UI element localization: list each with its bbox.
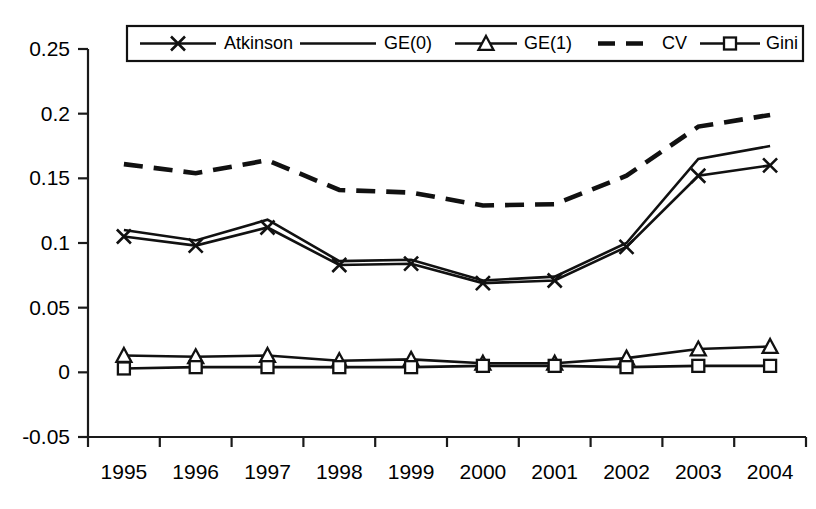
data-point-marker-square xyxy=(724,38,736,50)
series-path xyxy=(124,366,770,369)
x-tick-label: 2004 xyxy=(747,460,794,483)
y-tick-label: 0 xyxy=(58,360,70,383)
series-path xyxy=(124,115,770,206)
series-path xyxy=(124,146,770,281)
y-tick-label: 0.2 xyxy=(41,102,70,125)
x-tick-label: 1996 xyxy=(172,460,219,483)
series-layer xyxy=(116,115,777,374)
legend-label: CV xyxy=(662,33,687,53)
series-path xyxy=(124,346,770,363)
data-point-marker-square xyxy=(477,360,489,372)
data-point-marker-square xyxy=(262,361,274,373)
series-ge0 xyxy=(124,146,770,281)
x-axis-ticks: 1995199619971998199920002001200220032004 xyxy=(88,437,806,483)
data-point-marker-square xyxy=(764,360,776,372)
x-tick-label: 2002 xyxy=(603,460,650,483)
data-point-marker-square xyxy=(333,361,345,373)
x-tick-label: 2001 xyxy=(531,460,578,483)
y-axis-ticks: 0.250.20.150.10.050-0.05 xyxy=(22,37,88,448)
legend-label: Gini xyxy=(766,33,798,53)
line-chart: 0.250.20.150.10.050-0.05 199519961997199… xyxy=(0,0,816,509)
x-tick-label: 1999 xyxy=(388,460,435,483)
x-tick-label: 1995 xyxy=(101,460,148,483)
legend-label: GE(1) xyxy=(524,33,572,53)
x-tick-label: 2000 xyxy=(460,460,507,483)
x-tick-label: 1997 xyxy=(244,460,291,483)
x-tick-label: 1998 xyxy=(316,460,363,483)
y-tick-label: 0.15 xyxy=(29,166,70,189)
series-path xyxy=(124,165,770,283)
data-point-marker-square xyxy=(190,361,202,373)
data-point-marker-square xyxy=(621,361,633,373)
chart-container: 0.250.20.150.10.050-0.05 199519961997199… xyxy=(0,0,816,509)
y-tick-label: 0.25 xyxy=(29,37,70,60)
chart-legend: AtkinsonGE(0)GE(1)CVGini xyxy=(127,26,803,61)
y-tick-label: 0.05 xyxy=(29,296,70,319)
x-tick-label: 2003 xyxy=(675,460,722,483)
data-point-marker-square xyxy=(118,362,130,374)
series-cv xyxy=(124,115,770,206)
legend-label: Atkinson xyxy=(224,33,293,53)
y-tick-label: -0.05 xyxy=(22,425,70,448)
legend-label: GE(0) xyxy=(384,33,432,53)
y-tick-label: 0.1 xyxy=(41,231,70,254)
data-point-marker-square xyxy=(692,360,704,372)
data-point-marker-square xyxy=(405,361,417,373)
data-point-marker-square xyxy=(549,360,561,372)
